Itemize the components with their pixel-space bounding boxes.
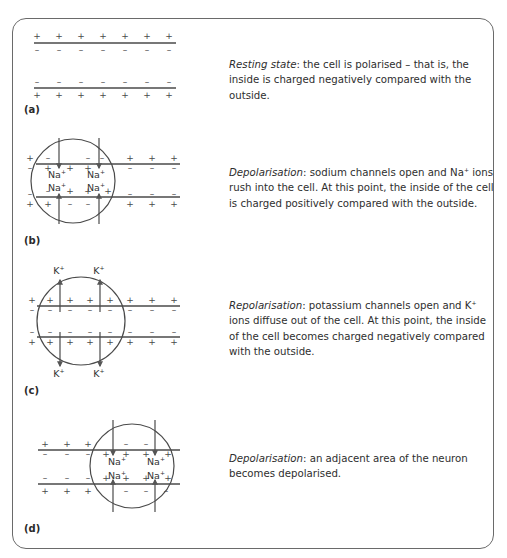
svg-text:–: – bbox=[88, 305, 93, 315]
svg-text:–: – bbox=[57, 45, 62, 55]
svg-text:+: + bbox=[165, 90, 173, 100]
svg-text:+: + bbox=[66, 337, 74, 347]
svg-text:–: – bbox=[88, 327, 93, 337]
svg-text:–: – bbox=[86, 473, 91, 483]
svg-text:–: – bbox=[128, 163, 133, 173]
svg-text:–: – bbox=[28, 189, 33, 199]
svg-text:+: + bbox=[126, 199, 134, 209]
svg-text:–: – bbox=[86, 199, 91, 209]
svg-text:–: – bbox=[35, 77, 40, 87]
svg-text:+: + bbox=[44, 199, 52, 209]
svg-text:+: + bbox=[28, 337, 36, 347]
svg-text:–: – bbox=[65, 449, 70, 459]
svg-text:+: + bbox=[86, 337, 94, 347]
svg-text:+: + bbox=[143, 90, 151, 100]
svg-text:+: + bbox=[148, 295, 156, 305]
svg-text:+: + bbox=[126, 295, 134, 305]
svg-text:+: + bbox=[165, 31, 173, 41]
svg-text:–: – bbox=[101, 77, 106, 87]
svg-text:–: – bbox=[150, 305, 155, 315]
svg-text:+: + bbox=[77, 31, 85, 41]
svg-text:K+: K+ bbox=[93, 264, 104, 276]
svg-text:–: – bbox=[145, 45, 150, 55]
svg-text:–: – bbox=[145, 77, 150, 87]
svg-text:–: – bbox=[43, 473, 48, 483]
svg-text:–: – bbox=[86, 153, 91, 163]
svg-text:Na+: Na+ bbox=[87, 181, 105, 193]
svg-text:–: – bbox=[123, 77, 128, 87]
svg-text:+: + bbox=[86, 295, 94, 305]
svg-text:–: – bbox=[172, 163, 177, 173]
svg-text:+: + bbox=[148, 199, 156, 209]
svg-text:–: – bbox=[144, 439, 149, 449]
svg-text:–: – bbox=[86, 449, 91, 459]
svg-text:+: + bbox=[99, 31, 107, 41]
svg-text:+: + bbox=[63, 486, 71, 496]
svg-text:–: – bbox=[144, 486, 149, 496]
svg-text:+: + bbox=[170, 337, 178, 347]
svg-text:–: – bbox=[150, 189, 155, 199]
svg-text:–: – bbox=[35, 45, 40, 55]
description-title: Depolarisation bbox=[229, 167, 303, 178]
svg-text:Na+: Na+ bbox=[87, 168, 105, 180]
svg-text:–: – bbox=[68, 327, 73, 337]
svg-text:–: – bbox=[167, 77, 172, 87]
svg-text:–: – bbox=[124, 486, 129, 496]
svg-text:–: – bbox=[30, 327, 35, 337]
svg-text:+: + bbox=[66, 186, 74, 196]
svg-text:+: + bbox=[170, 199, 178, 209]
svg-text:+: + bbox=[28, 295, 36, 305]
svg-text:–: – bbox=[172, 327, 177, 337]
svg-text:–: – bbox=[68, 199, 73, 209]
svg-text:–: – bbox=[150, 327, 155, 337]
svg-text:+: + bbox=[84, 486, 92, 496]
svg-text:–: – bbox=[172, 189, 177, 199]
svg-text:–: – bbox=[48, 327, 53, 337]
svg-text:+: + bbox=[46, 337, 54, 347]
svg-text:+: + bbox=[33, 31, 41, 41]
svg-text:+: + bbox=[77, 90, 85, 100]
panel-label-c: (c) bbox=[24, 385, 39, 396]
svg-text:Na+: Na+ bbox=[48, 181, 66, 193]
svg-text:–: – bbox=[150, 163, 155, 173]
svg-text:+: + bbox=[148, 153, 156, 163]
svg-text:+: + bbox=[41, 486, 49, 496]
svg-text:+: + bbox=[63, 439, 71, 449]
svg-text:–: – bbox=[57, 77, 62, 87]
svg-text:K+: K+ bbox=[53, 367, 64, 379]
svg-text:+: + bbox=[170, 153, 178, 163]
svg-text:+: + bbox=[126, 337, 134, 347]
panel-c-diagram: +––++––++––++––++––++––++––++––+K+K+K+K+ bbox=[28, 264, 180, 379]
svg-text:+: + bbox=[143, 31, 151, 41]
svg-text:–: – bbox=[79, 77, 84, 87]
svg-text:+: + bbox=[55, 90, 63, 100]
svg-text:+: + bbox=[164, 449, 172, 459]
svg-text:–: – bbox=[46, 153, 51, 163]
svg-text:–: – bbox=[128, 189, 133, 199]
svg-text:+: + bbox=[106, 337, 114, 347]
description-repolarisation: Repolarisation: potassium channels open … bbox=[229, 298, 499, 359]
svg-text:Na+: Na+ bbox=[147, 469, 165, 481]
svg-text:–: – bbox=[164, 486, 169, 496]
svg-text:+: + bbox=[148, 337, 156, 347]
svg-text:–: – bbox=[108, 327, 113, 337]
svg-text:–: – bbox=[28, 163, 33, 173]
svg-text:+: + bbox=[26, 153, 34, 163]
svg-text:+: + bbox=[106, 295, 114, 305]
svg-text:Na+: Na+ bbox=[147, 455, 165, 467]
svg-text:+: + bbox=[126, 153, 134, 163]
svg-text:+: + bbox=[41, 439, 49, 449]
description-adjacent-depolarisation: Depolarisation: an adjacent area of the … bbox=[229, 451, 499, 482]
svg-text:–: – bbox=[43, 449, 48, 459]
svg-text:+: + bbox=[121, 31, 129, 41]
svg-text:–: – bbox=[123, 45, 128, 55]
svg-text:+: + bbox=[104, 186, 112, 196]
svg-text:–: – bbox=[124, 439, 129, 449]
svg-text:+: + bbox=[99, 90, 107, 100]
svg-text:–: – bbox=[101, 45, 106, 55]
panel-a-diagram: +––++––++––++––++––++––++––+ bbox=[33, 31, 176, 100]
svg-text:–: – bbox=[48, 305, 53, 315]
svg-text:+: + bbox=[46, 295, 54, 305]
svg-text:+: + bbox=[66, 163, 74, 173]
svg-text:K+: K+ bbox=[53, 264, 64, 276]
